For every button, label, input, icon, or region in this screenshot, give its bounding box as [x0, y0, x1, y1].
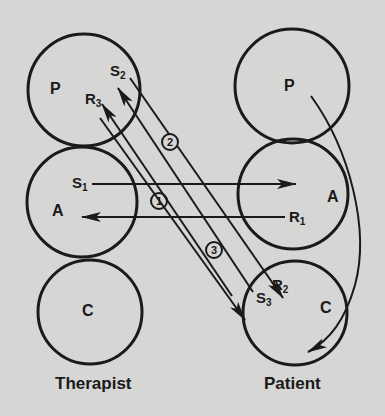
ta-diagram: P A C Therapist P A C Patient S1 R1 1: [0, 0, 385, 416]
stimulus-3-label: S3: [256, 289, 272, 308]
transaction-2-number: 2: [167, 136, 173, 148]
transaction-1: S1 R1 1: [72, 174, 306, 227]
patient-caption: Patient: [264, 374, 321, 393]
therapist-adult-label: A: [52, 202, 64, 219]
patient-parent-label: P: [284, 77, 295, 94]
response-3-label: R3: [85, 90, 102, 109]
therapist-parent-label: P: [50, 80, 61, 97]
patient-adult-label: A: [327, 188, 339, 205]
therapist-parent-circle: [28, 34, 140, 146]
therapist-column: P A C Therapist: [27, 34, 142, 393]
therapist-caption: Therapist: [55, 374, 132, 393]
stimulus-2-arrow: [118, 88, 253, 292]
diagram-svg: P A C Therapist P A C Patient S1 R1 1: [0, 0, 385, 416]
therapist-child-label: C: [82, 302, 94, 319]
stimulus-2-label: S2: [110, 62, 126, 81]
therapist-adult-circle: [27, 147, 137, 257]
patient-child-label: C: [320, 299, 332, 316]
response-1-label: R1: [289, 208, 306, 227]
diagonal-transactions: S2 R3 S3 R2 2 3: [85, 62, 289, 320]
patient-internal-arrow: [308, 96, 360, 352]
transaction-3-number: 3: [211, 244, 217, 256]
stimulus-1-label: S1: [72, 174, 88, 193]
response-2-label: R2: [272, 276, 289, 295]
